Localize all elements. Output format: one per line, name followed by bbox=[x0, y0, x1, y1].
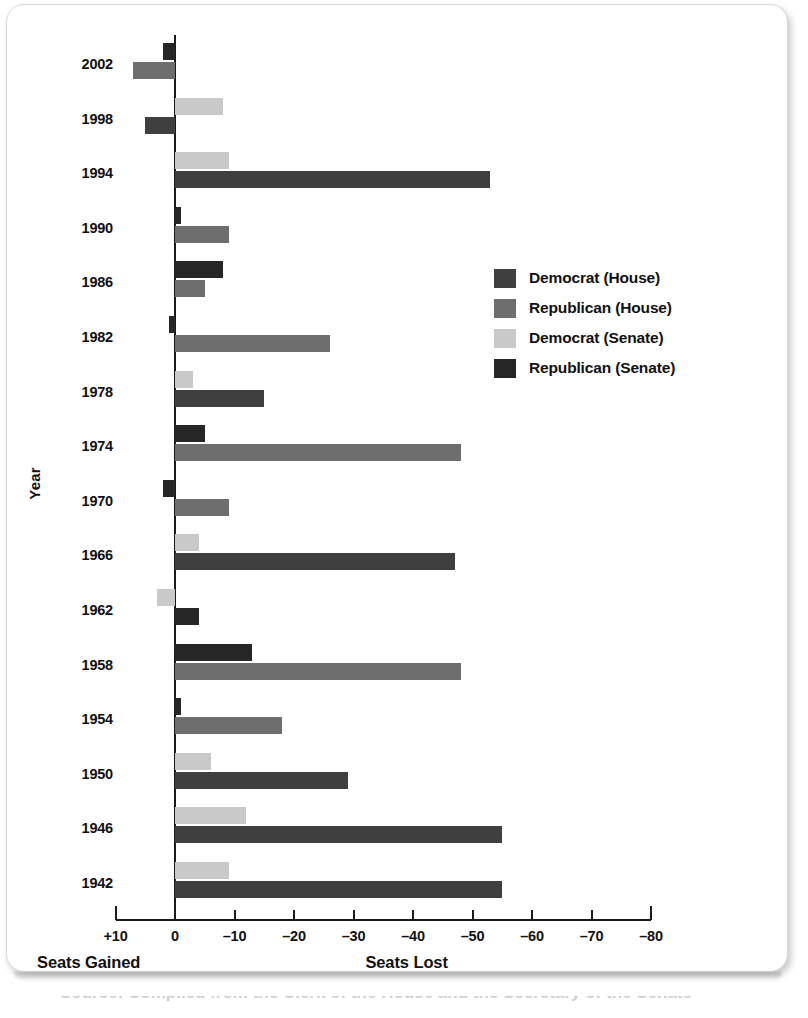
y-tick-label: 1958 bbox=[27, 657, 113, 673]
legend-swatch-icon bbox=[494, 269, 516, 288]
x-tick-label: –70 bbox=[562, 928, 622, 944]
bar bbox=[175, 280, 205, 297]
y-tick-label: 1970 bbox=[27, 493, 113, 509]
bar bbox=[175, 534, 199, 551]
plot-area: Year 20021998199419901986198219781974197… bbox=[7, 5, 789, 973]
x-tick-label: –40 bbox=[383, 928, 443, 944]
y-tick-label: 2002 bbox=[27, 56, 113, 72]
bar bbox=[175, 772, 348, 789]
bar bbox=[175, 425, 205, 442]
y-tick-label: 1982 bbox=[27, 329, 113, 345]
legend-label: Republican (House) bbox=[529, 299, 672, 317]
x-axis-tick bbox=[234, 910, 236, 919]
bar bbox=[175, 553, 455, 570]
y-tick-label: 1990 bbox=[27, 220, 113, 236]
bar bbox=[175, 152, 229, 169]
bar bbox=[169, 316, 175, 333]
bar bbox=[175, 717, 282, 734]
y-tick-label: 1954 bbox=[27, 711, 113, 727]
legend-swatch-icon bbox=[494, 329, 516, 348]
x-tick-label: –60 bbox=[502, 928, 562, 944]
x-tick-label: –10 bbox=[205, 928, 265, 944]
footer-caption-text: Source: Compiled from the Clerk of the H… bbox=[60, 996, 760, 1003]
bar bbox=[175, 663, 461, 680]
bar bbox=[175, 98, 223, 115]
bar bbox=[175, 698, 181, 715]
x-axis-line bbox=[116, 919, 652, 921]
bar bbox=[175, 171, 490, 188]
x-axis-caption-left: Seats Gained bbox=[37, 953, 140, 972]
y-tick-label: 1986 bbox=[27, 274, 113, 290]
bar bbox=[157, 589, 175, 606]
x-tick-label: –50 bbox=[443, 928, 503, 944]
y-tick-label: 1966 bbox=[27, 547, 113, 563]
bar bbox=[175, 753, 211, 770]
legend-item: Democrat (Senate) bbox=[494, 323, 675, 353]
bar bbox=[175, 644, 252, 661]
x-axis-tick bbox=[412, 910, 414, 919]
legend-label: Democrat (House) bbox=[529, 269, 660, 287]
legend-swatch-icon bbox=[494, 299, 516, 318]
bar bbox=[163, 480, 175, 497]
bar bbox=[175, 371, 193, 388]
x-axis-tick bbox=[650, 906, 652, 920]
y-tick-label: 1974 bbox=[27, 438, 113, 454]
legend-label: Democrat (Senate) bbox=[529, 329, 663, 347]
x-tick-label: –80 bbox=[621, 928, 681, 944]
bar bbox=[175, 881, 502, 898]
legend-item: Republican (House) bbox=[494, 293, 675, 323]
legend-swatch-icon bbox=[494, 359, 516, 378]
bar bbox=[175, 335, 330, 352]
page-footer-caption: Source: Compiled from the Clerk of the H… bbox=[60, 996, 760, 1018]
bar bbox=[175, 499, 229, 516]
bar bbox=[133, 62, 175, 79]
x-axis-tick bbox=[591, 910, 593, 919]
bar bbox=[175, 444, 461, 461]
legend: Democrat (House)Republican (House)Democr… bbox=[494, 263, 675, 383]
bar bbox=[175, 862, 229, 879]
bar bbox=[175, 261, 223, 278]
y-tick-label: 1962 bbox=[27, 602, 113, 618]
bar bbox=[175, 608, 199, 625]
y-tick-label: 1950 bbox=[27, 766, 113, 782]
legend-label: Republican (Senate) bbox=[529, 359, 675, 377]
bar bbox=[175, 390, 264, 407]
bar bbox=[175, 226, 229, 243]
y-tick-label: 1994 bbox=[27, 165, 113, 181]
x-axis-tick bbox=[293, 910, 295, 919]
x-axis-tick bbox=[115, 906, 117, 920]
x-axis-tick bbox=[174, 910, 176, 919]
bar bbox=[175, 826, 502, 843]
y-tick-label: 1946 bbox=[27, 820, 113, 836]
x-tick-label: +10 bbox=[86, 928, 146, 944]
x-tick-label: 0 bbox=[145, 928, 205, 944]
y-tick-label: 1978 bbox=[27, 384, 113, 400]
x-axis-tick bbox=[531, 910, 533, 919]
legend-item: Democrat (House) bbox=[494, 263, 675, 293]
chart-page: Year 20021998199419901986198219781974197… bbox=[0, 0, 808, 1018]
legend-item: Republican (Senate) bbox=[494, 353, 675, 383]
x-axis-tick bbox=[472, 910, 474, 919]
chart-card: Year 20021998199419901986198219781974197… bbox=[6, 4, 788, 972]
card-shadow bbox=[14, 972, 782, 981]
bar bbox=[175, 207, 181, 224]
y-tick-label: 1998 bbox=[27, 111, 113, 127]
x-axis-caption-right: Seats Lost bbox=[365, 953, 447, 972]
bar bbox=[145, 117, 175, 134]
x-tick-label: –20 bbox=[264, 928, 324, 944]
bar bbox=[163, 43, 175, 60]
x-tick-label: –30 bbox=[324, 928, 384, 944]
bar bbox=[175, 807, 246, 824]
x-axis-tick bbox=[353, 910, 355, 919]
y-tick-label: 1942 bbox=[27, 875, 113, 891]
